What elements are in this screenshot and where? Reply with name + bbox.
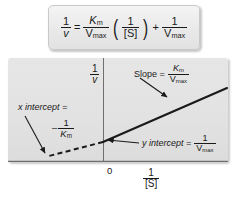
x-intercept-leader-arrow: [25, 116, 45, 153]
slope-annotation: Slope = Km Vmax: [134, 64, 189, 85]
y-axis-numerator: 1: [90, 64, 100, 74]
x-intercept-label: x intercept =: [18, 103, 67, 112]
x-intercept-fraction: 1 Km: [58, 118, 74, 139]
y-axis-denominator: v: [90, 74, 99, 85]
y-intercept-leader-arrow: [108, 140, 139, 143]
x-axis-numerator: 1: [146, 168, 156, 178]
x-axis-label: 1 [S]: [143, 168, 159, 189]
y-axis-label: 1 v: [90, 64, 100, 85]
y-intercept-fraction: 1 Vmax: [194, 134, 215, 154]
y-intercept-numerator: 1: [200, 134, 209, 143]
x-axis-denominator: [S]: [143, 178, 159, 189]
slope-numerator: Km: [171, 64, 186, 74]
lineweaver-burk-figure: 1 v = Km Vmax ( 1 [S] ) + 1 Vmax: [0, 0, 244, 211]
y-axis-fraction: 1 v: [90, 64, 100, 85]
slope-denominator: Vmax: [168, 74, 189, 85]
x-intercept-label-text: x intercept =: [18, 102, 67, 112]
slope-fraction: Km Vmax: [168, 64, 189, 85]
y-intercept-denominator: Vmax: [194, 143, 215, 154]
slope-label-text: Slope =: [134, 70, 165, 79]
y-intercept-annotation: y intercept = 1 Vmax: [142, 134, 216, 154]
x-intercept-numerator: 1: [61, 118, 70, 128]
extrapolation-dashed-line: [49, 142, 103, 156]
origin-label: 0: [107, 166, 112, 176]
y-intercept-label-text: y intercept =: [142, 139, 191, 148]
x-axis-fraction: 1 [S]: [143, 168, 159, 189]
x-intercept-value: – 1 Km: [52, 118, 74, 139]
x-intercept-denominator: Km: [58, 128, 74, 139]
x-intercept-minus-sign: –: [52, 123, 57, 133]
